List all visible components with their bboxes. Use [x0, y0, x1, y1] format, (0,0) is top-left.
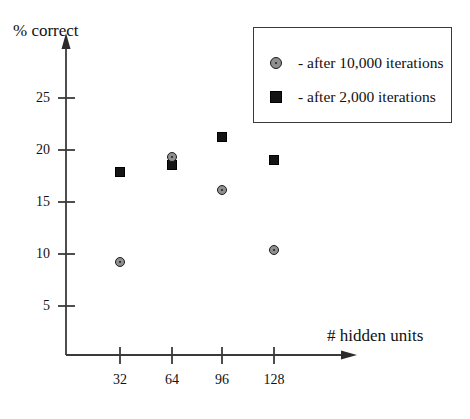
data-point-square-128 — [269, 155, 279, 165]
legend-label-10000-iterations: - after 10,000 iterations — [298, 55, 443, 71]
x-axis-arrowhead — [341, 351, 357, 360]
data-point-circle-32 — [115, 257, 125, 267]
y-tick-label-10: 10 — [20, 247, 50, 261]
x-tick-label-96: 96 — [202, 373, 242, 387]
data-point-square-96 — [217, 132, 227, 142]
data-point-circle-128 — [269, 245, 279, 255]
x-tick-label-32: 32 — [100, 373, 140, 387]
y-tick-label-20: 20 — [20, 143, 50, 157]
y-tick-label-5: 5 — [20, 299, 50, 313]
data-point-square-32 — [115, 167, 125, 177]
circle-marker-icon — [270, 57, 282, 69]
legend-entry-2000-iterations: - after 2,000 iterations — [254, 87, 453, 107]
y-axis-title: % correct — [13, 22, 79, 39]
x-tick-label-64: 64 — [152, 373, 192, 387]
chart-legend: - after 10,000 iterations - after 2,000 … — [253, 27, 452, 123]
x-tick-label-128: 128 — [254, 373, 294, 387]
data-point-circle-96 — [217, 185, 227, 195]
legend-entry-10000-iterations: - after 10,000 iterations — [254, 53, 453, 73]
y-tick-label-25: 25 — [20, 91, 50, 105]
square-marker-icon — [270, 91, 282, 103]
legend-marker-cell-1 — [254, 91, 298, 103]
x-axis-title: # hidden units — [327, 327, 423, 344]
data-point-circle-64 — [167, 152, 177, 162]
y-tick-label-15: 15 — [20, 195, 50, 209]
legend-label-2000-iterations: - after 2,000 iterations — [298, 89, 436, 105]
scatter-chart: % correct # hidden units 25 20 15 10 5 3… — [0, 0, 470, 419]
legend-marker-cell-0 — [254, 57, 298, 69]
